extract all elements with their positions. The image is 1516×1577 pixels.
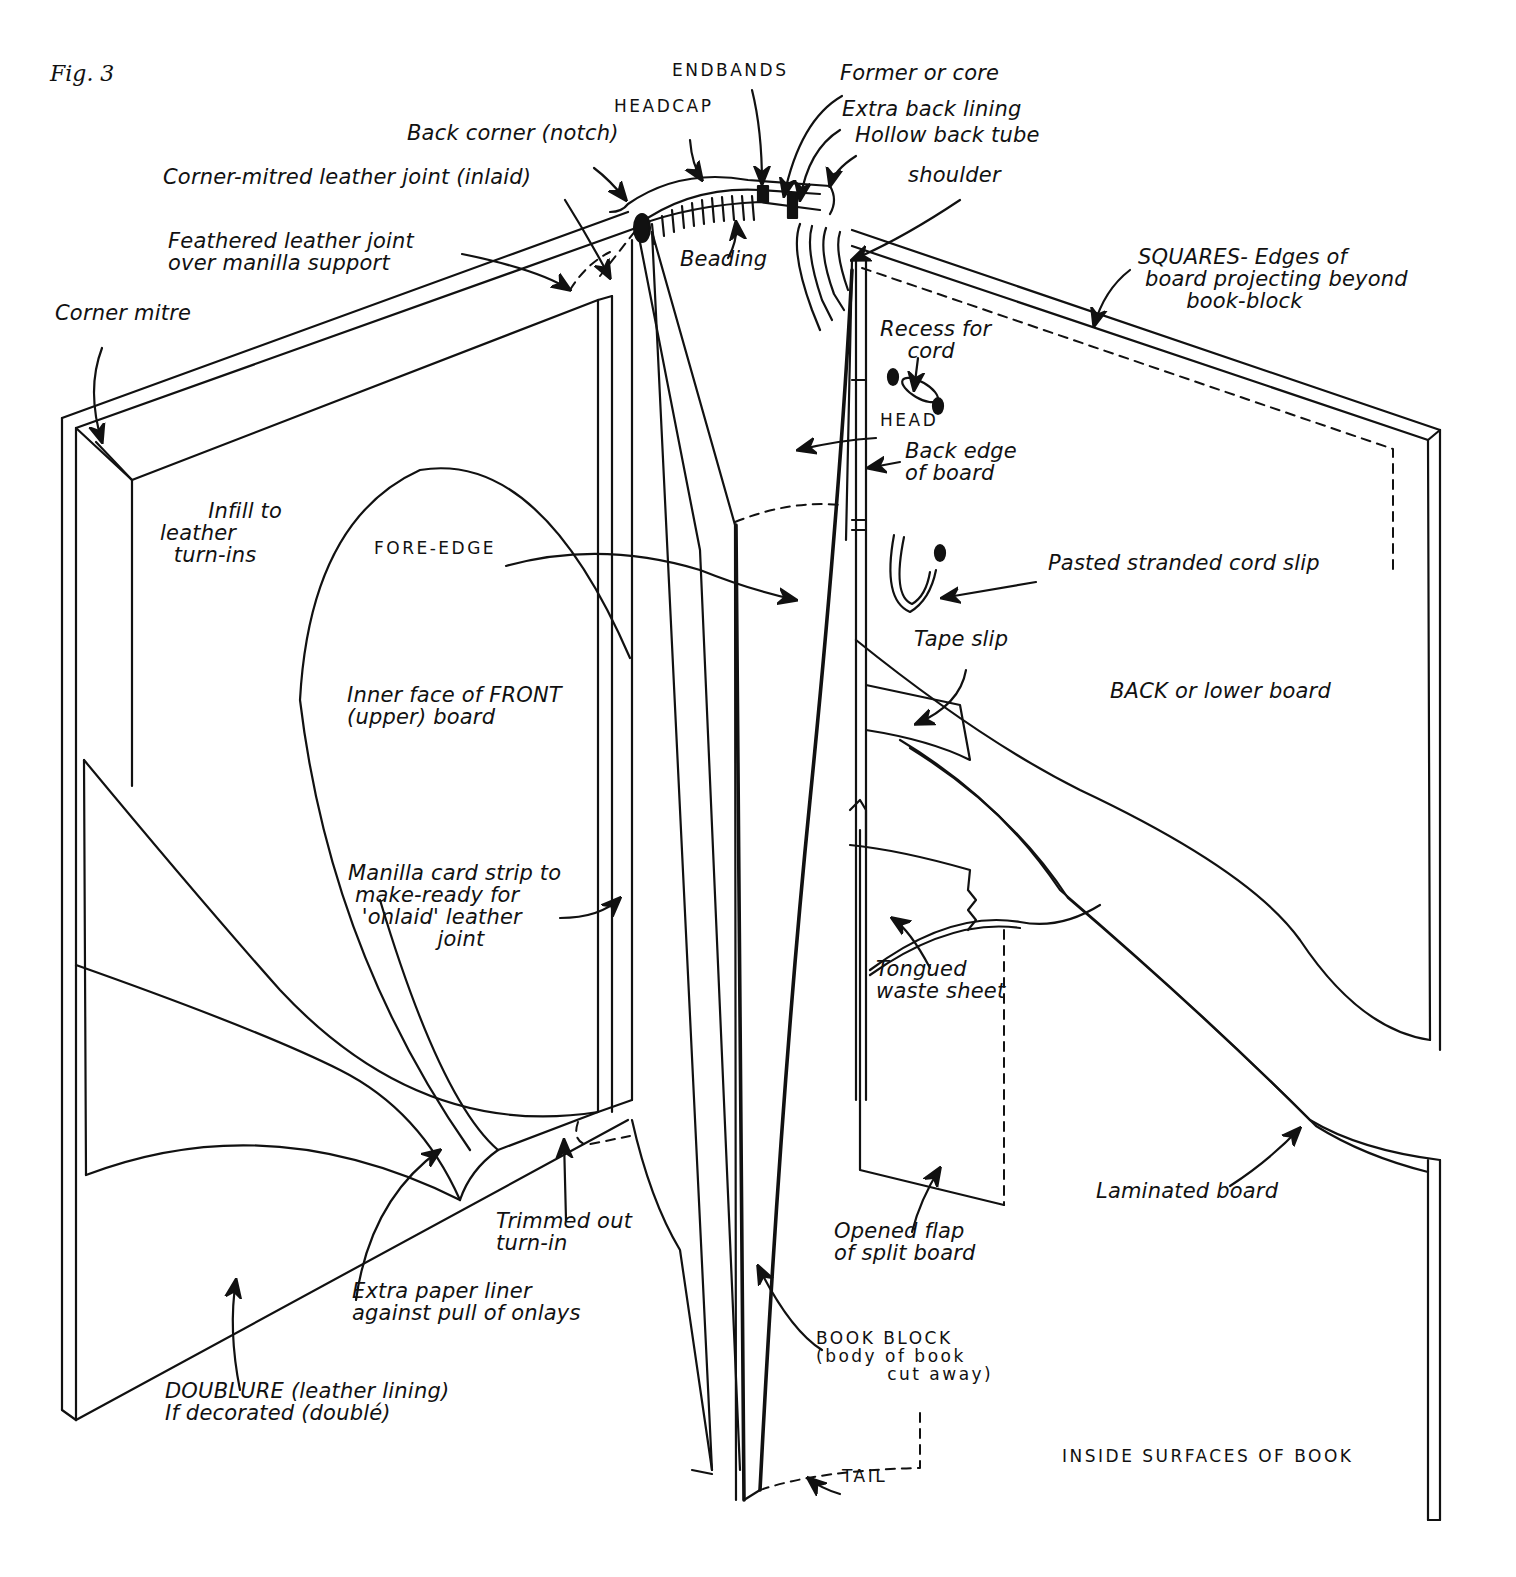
book-block xyxy=(632,232,852,1500)
label-opened-flap: Opened flap of split board xyxy=(834,1220,976,1264)
label-squares: SQUARES- Edges of board projecting beyon… xyxy=(1138,246,1408,312)
label-tail: TAIL xyxy=(842,1468,887,1486)
label-hollow-back-tube: Hollow back tube xyxy=(855,124,1040,146)
label-former-or-core: Former or core xyxy=(840,62,999,84)
figure-caption: INSIDE SURFACES OF BOOK xyxy=(1062,1448,1354,1466)
label-manilla-card-strip: Manilla card strip to make-ready for 'on… xyxy=(348,862,561,950)
label-tongued-waste-sheet: Tongued waste sheet xyxy=(876,958,1005,1002)
label-recess-for-cord: Recess for cord xyxy=(880,318,991,362)
label-fore-edge: FORE-EDGE xyxy=(374,540,496,558)
label-pasted-cord-slip: Pasted stranded cord slip xyxy=(1048,552,1320,574)
label-book-block: BOOK BLOCK (body of book cut away) xyxy=(816,1330,993,1384)
label-back-corner-notch: Back corner (notch) xyxy=(407,122,619,144)
label-headcap: HEADCAP xyxy=(614,98,714,116)
label-tape-slip: Tape slip xyxy=(914,628,1008,650)
label-doublure: DOUBLURE (leather lining) If decorated (… xyxy=(165,1380,449,1424)
label-extra-paper-liner: Extra paper liner against pull of onlays xyxy=(352,1280,581,1324)
label-corner-mitred-joint: Corner-mitred leather joint (inlaid) xyxy=(163,166,531,188)
label-infill-turn-ins: Infill to leather turn-ins xyxy=(160,500,282,566)
label-endbands: ENDBANDS xyxy=(672,62,788,80)
figure-number: Fig. 3 xyxy=(50,62,114,85)
back-board xyxy=(760,230,1440,1520)
leader-arrows xyxy=(94,90,1300,1494)
label-laminated-board: Laminated board xyxy=(1096,1180,1278,1202)
label-feathered-joint: Feathered leather joint over manilla sup… xyxy=(168,230,414,274)
label-shoulder: shoulder xyxy=(908,164,1001,186)
label-corner-mitre: Corner mitre xyxy=(55,302,191,324)
label-back-edge-of-board: Back edge of board xyxy=(905,440,1017,484)
label-extra-back-lining: Extra back lining xyxy=(842,98,1022,120)
label-head: HEAD xyxy=(880,412,938,430)
label-inner-face-front: Inner face of FRONT (upper) board xyxy=(347,684,562,728)
label-back-or-lower-board: BACK or lower board xyxy=(1110,680,1331,702)
label-trimmed-out-turn-in: Trimmed out turn-in xyxy=(496,1210,632,1254)
label-beading: Beading xyxy=(680,248,767,270)
